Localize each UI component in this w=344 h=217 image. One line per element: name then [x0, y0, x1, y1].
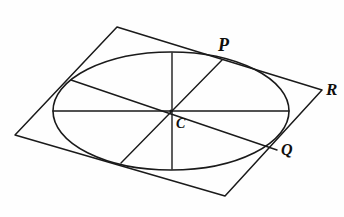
label-vertex-r: R — [326, 81, 337, 98]
label-centre-c: C — [176, 117, 185, 131]
label-point-q: Q — [281, 142, 293, 158]
label-point-p: P — [218, 36, 229, 54]
figure-canvas — [0, 0, 344, 217]
diameter-through-Q — [71, 80, 277, 150]
geometry-figure: P R Q C — [0, 0, 344, 217]
centre-point-marker — [169, 109, 172, 112]
